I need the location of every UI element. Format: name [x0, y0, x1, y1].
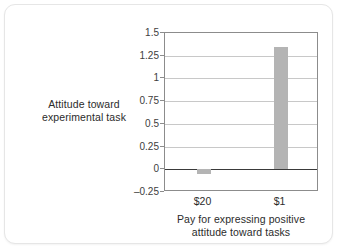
gridline	[165, 56, 317, 57]
y-tick-mark	[160, 191, 164, 192]
chart-card: Attitude toward experimental task 1.51.2…	[4, 4, 333, 244]
y-tick-label: 0.75	[117, 95, 159, 106]
zero-line	[165, 169, 317, 171]
y-tick-label: 1	[117, 72, 159, 83]
gridline	[165, 101, 317, 102]
x-axis-title-line-1: Pay for expressing positive	[155, 213, 327, 226]
x-tick-label: $1	[250, 195, 310, 207]
x-tick-label: $20	[173, 195, 233, 207]
y-tick-label: –0.25	[117, 186, 159, 197]
plot-area	[164, 32, 318, 191]
x-axis-title: Pay for expressing positive attitude tow…	[155, 213, 327, 239]
y-tick-label: 0	[117, 163, 159, 174]
bar-chart-figure: Attitude toward experimental task 1.51.2…	[5, 5, 332, 243]
gridline	[165, 78, 317, 79]
bar-1	[274, 47, 288, 170]
y-tick-label: 0.5	[117, 117, 159, 128]
x-axis-title-line-2: attitude toward tasks	[155, 226, 327, 239]
bar-20	[197, 169, 211, 174]
y-tick-label: 1.25	[117, 49, 159, 60]
gridline	[165, 124, 317, 125]
gridline	[165, 147, 317, 148]
y-tick-label: 0.25	[117, 140, 159, 151]
y-tick-label: 1.5	[117, 27, 159, 38]
